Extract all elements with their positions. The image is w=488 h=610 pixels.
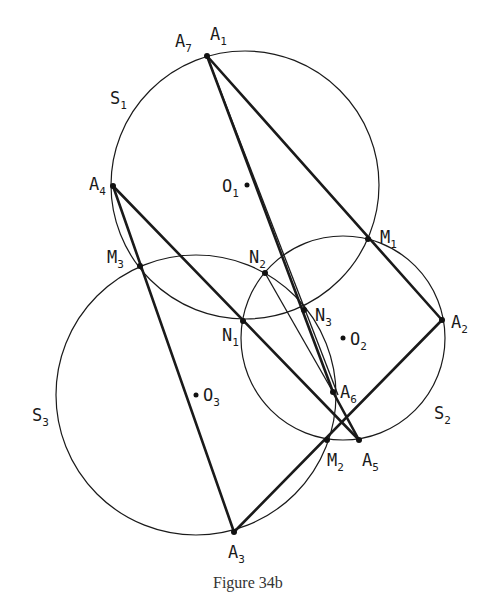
label-o2: O2 [350,329,367,353]
label-a7: A7 [175,31,192,55]
label-a4: A4 [89,174,106,198]
label-o3: O3 [203,385,220,409]
point-o2 [341,336,346,341]
point-m1 [365,236,371,242]
point-o3 [194,393,199,398]
segment-a1-a2 [207,56,442,320]
label-a1: A1 [210,24,227,48]
point-n3 [301,307,307,313]
point-a4 [110,183,116,189]
label-s2: S2 [434,403,451,427]
geometry-figure: A7 A1 S1 A4 O1 M1 M3 N2 N3 A2 N1 O2 O3 A… [0,0,488,610]
label-s1: S1 [110,88,127,112]
label-a3: A3 [228,542,245,566]
point-a3 [231,529,237,535]
label-n1: N1 [222,325,239,349]
point-n1 [240,318,246,324]
segment-n2-a6 [265,273,333,392]
point-m2 [324,437,330,443]
point-a1 [204,53,210,59]
label-a5: A5 [362,450,379,474]
label-a6: A6 [340,382,357,406]
point-m3 [137,263,143,269]
figure-caption: Figure 34b [213,574,283,592]
segment-a2-a3 [234,320,442,532]
point-a2 [439,317,445,323]
point-a6 [330,389,336,395]
label-o1: O1 [222,176,239,200]
label-m1: M1 [380,227,397,251]
segment-a3-a4 [113,186,234,532]
label-m2: M2 [327,450,344,474]
label-n2: N2 [249,247,266,271]
label-s3: S3 [32,405,49,429]
point-a5 [356,437,362,443]
label-m3: M3 [107,247,124,271]
point-o1 [245,183,250,188]
label-a2: A2 [451,312,468,336]
